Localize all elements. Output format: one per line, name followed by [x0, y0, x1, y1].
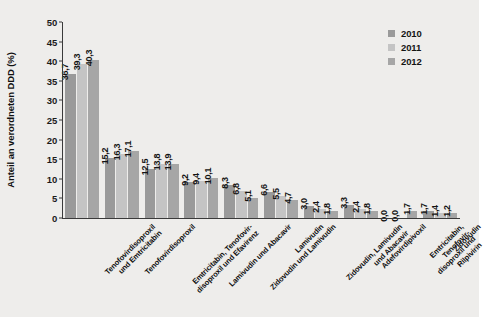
legend-swatch — [388, 30, 395, 37]
bar-fill — [145, 169, 156, 218]
bar: 39,3 — [77, 64, 88, 218]
bar-group: 15,216,317,1 — [105, 22, 140, 218]
bar: 12,5 — [145, 169, 156, 218]
bar-value-label: 1,8 — [322, 203, 332, 215]
bar-value-label: 17,1 — [123, 141, 133, 157]
bar-fill — [128, 151, 139, 218]
bar-group: 3,32,41,8 — [344, 22, 379, 218]
bar-group: 36,739,340,3 — [65, 22, 100, 218]
bar: 9,4 — [196, 181, 207, 218]
bar-value-label: 40,3 — [84, 50, 94, 66]
bar: 1,8 — [367, 211, 378, 218]
bar: 9,2 — [184, 182, 195, 218]
bar-value-label: 13,9 — [163, 153, 173, 169]
bar-group: 8,36,85,1 — [224, 22, 259, 218]
bar-fill — [208, 178, 219, 218]
bar-value-label: 15,2 — [100, 148, 110, 164]
bar: 17,1 — [128, 151, 139, 218]
bar-fill — [184, 182, 195, 218]
chart-legend: 201020112012 — [388, 26, 422, 68]
bar-value-label: 1,7 — [402, 204, 412, 216]
x-axis-label: Tenofovirdisoproxil und Emtricitabin — [104, 223, 164, 283]
bar-value-label: 3,3 — [339, 197, 349, 209]
bar-fill — [168, 164, 179, 218]
bar: 13,8 — [156, 164, 167, 218]
bar: 16,3 — [116, 154, 127, 218]
bar: 4,7 — [287, 200, 298, 218]
bar-value-label: 1,4 — [430, 205, 440, 217]
bar-group: 12,513,813,9 — [145, 22, 180, 218]
legend-swatch — [388, 58, 395, 65]
bar-value-label: 5,1 — [243, 190, 253, 202]
bar-fill — [77, 64, 88, 218]
bar-value-label: 1,8 — [362, 203, 372, 215]
y-axis-title: Anteil an verordneten DDD (%) — [5, 52, 16, 187]
legend-label: 2010 — [401, 28, 422, 39]
bar-value-label: 9,4 — [191, 173, 201, 185]
bar-value-label: 39,3 — [72, 54, 82, 70]
bar-fill — [156, 164, 167, 218]
bar-group: 6,65,54,7 — [264, 22, 299, 218]
bar-value-label: 9,2 — [180, 174, 190, 186]
bar-value-label: 5,5 — [271, 189, 281, 201]
bar-value-label: 1,2 — [442, 205, 452, 217]
bar-fill — [65, 74, 76, 218]
bar: 40,3 — [88, 60, 99, 218]
bar-fill — [88, 60, 99, 218]
bar: 15,2 — [105, 158, 116, 218]
bar: 36,7 — [65, 74, 76, 218]
legend-item[interactable]: 2010 — [388, 26, 422, 40]
bar-value-label: 2,4 — [311, 201, 321, 213]
bar-group: 9,29,410,1 — [184, 22, 219, 218]
bar: 1,7 — [407, 211, 418, 218]
bar-value-label: 1,7 — [419, 204, 429, 216]
bar-value-label: 10,1 — [203, 168, 213, 184]
bar: 5,1 — [248, 198, 259, 218]
bar-fill — [105, 158, 116, 218]
legend-item[interactable]: 2011 — [388, 40, 422, 54]
bar-value-label: 3,0 — [299, 198, 309, 210]
y-axis-line — [62, 22, 63, 219]
bar-fill — [116, 154, 127, 218]
bar-value-label: 12,5 — [140, 159, 150, 175]
bar-value-label: 8,3 — [220, 178, 230, 190]
legend-item[interactable]: 2012 — [388, 54, 422, 68]
bar-value-label: 6,8 — [231, 184, 241, 196]
legend-label: 2012 — [401, 56, 422, 67]
bar-value-label: 4,7 — [283, 192, 293, 204]
bar-value-label: 6,6 — [259, 184, 269, 196]
bar-fill — [196, 181, 207, 218]
bar-group: 3,02,41,8 — [304, 22, 339, 218]
x-axis-labels: Tenofovirdisoproxil und EmtricitabinTeno… — [62, 219, 460, 317]
bar-group: 1,71,41,2 — [423, 22, 458, 218]
bar-value-label: 2,4 — [351, 201, 361, 213]
bar-value-label: 16,3 — [112, 144, 122, 160]
bar-value-label: 13,8 — [152, 154, 162, 170]
legend-swatch — [388, 44, 395, 51]
legend-label: 2011 — [401, 42, 421, 53]
bar: 10,1 — [208, 178, 219, 218]
bar: 13,9 — [168, 164, 179, 218]
bar: 1,8 — [327, 211, 338, 218]
